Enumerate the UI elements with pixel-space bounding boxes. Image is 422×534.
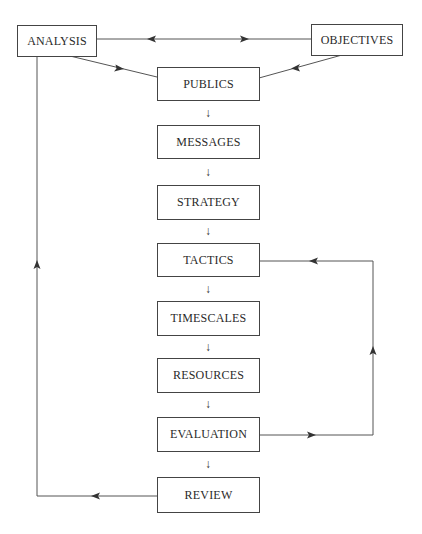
node-label: TIMESCALES bbox=[170, 311, 246, 326]
node-label: OBJECTIVES bbox=[321, 33, 394, 48]
node-label: MESSAGES bbox=[176, 135, 240, 150]
node-publics: PUBLICS bbox=[157, 67, 260, 101]
node-evaluation: EVALUATION bbox=[157, 417, 260, 452]
down-arrow-icon: ↓ bbox=[198, 283, 218, 295]
node-timescales: TIMESCALES bbox=[157, 301, 260, 336]
arrow-diag-right-icon bbox=[114, 65, 124, 72]
node-label: REVIEW bbox=[185, 488, 233, 503]
node-label: RESOURCES bbox=[173, 368, 244, 383]
node-strategy: STRATEGY bbox=[157, 185, 260, 220]
node-objectives: OBJECTIVES bbox=[311, 24, 403, 56]
arrow-diag-left-icon bbox=[291, 64, 300, 72]
node-label: STRATEGY bbox=[177, 195, 240, 210]
node-label: PUBLICS bbox=[183, 77, 234, 92]
node-tactics: TACTICS bbox=[157, 243, 260, 277]
node-label: TACTICS bbox=[183, 253, 233, 268]
down-arrow-icon: ↓ bbox=[198, 166, 218, 178]
node-resources: RESOURCES bbox=[157, 358, 260, 393]
node-messages: MESSAGES bbox=[157, 125, 260, 159]
down-arrow-icon: ↓ bbox=[198, 225, 218, 237]
node-label: ANALYSIS bbox=[27, 34, 87, 49]
node-label: EVALUATION bbox=[170, 427, 247, 442]
down-arrow-icon: ↓ bbox=[198, 458, 218, 470]
down-arrow-icon: ↓ bbox=[198, 398, 218, 410]
down-arrow-icon: ↓ bbox=[198, 341, 218, 353]
node-analysis: ANALYSIS bbox=[17, 25, 97, 57]
node-review: REVIEW bbox=[157, 477, 260, 513]
down-arrow-icon: ↓ bbox=[198, 107, 218, 119]
